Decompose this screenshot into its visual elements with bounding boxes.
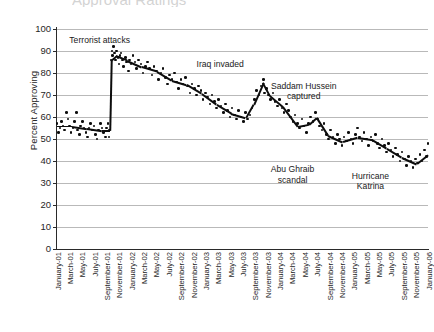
x-tick-may-03: May-03	[228, 252, 236, 277]
data-point	[307, 122, 310, 125]
x-tick-march-05: March-05	[364, 252, 372, 284]
y-tick-10: 10	[25, 221, 51, 232]
data-point	[370, 136, 373, 139]
data-point	[104, 136, 107, 139]
data-point	[63, 129, 66, 132]
data-point	[414, 158, 417, 161]
data-point	[121, 59, 124, 62]
data-point	[173, 72, 176, 75]
data-point	[94, 133, 97, 136]
data-point	[374, 133, 377, 136]
data-point	[396, 153, 399, 156]
data-point	[363, 131, 366, 134]
data-point	[89, 122, 92, 125]
data-point	[226, 109, 229, 112]
data-point	[122, 65, 125, 68]
gridline-70	[57, 95, 428, 96]
x-tick-november-02: November-02	[191, 252, 199, 298]
data-point	[60, 120, 63, 123]
data-point	[81, 120, 84, 123]
chart-title-text: Approval Ratings	[72, 0, 186, 7]
x-tick-march-04: March-04	[289, 252, 297, 284]
data-point	[303, 125, 306, 128]
data-point	[237, 109, 240, 112]
x-axis-tick-labels: January-01March-01May-01July-01September…	[57, 252, 428, 332]
x-tick-july-04: July-04	[314, 252, 322, 276]
data-point	[246, 118, 249, 121]
data-point	[153, 65, 156, 68]
data-point	[296, 122, 299, 125]
x-tick-september-01: September-01	[104, 252, 112, 300]
data-point	[65, 111, 68, 114]
data-point	[405, 164, 408, 167]
x-tick-september-04: September-04	[327, 252, 335, 300]
annotation-line: Saddam Hussein	[271, 80, 336, 91]
data-point	[265, 87, 268, 90]
data-point	[249, 114, 252, 117]
data-point	[376, 142, 379, 145]
data-point	[111, 54, 114, 57]
data-point	[403, 158, 406, 161]
annotation-line: Hurricane	[352, 170, 389, 181]
gridline-10	[57, 227, 428, 228]
y-tick-50: 50	[25, 133, 51, 144]
data-point	[305, 131, 308, 134]
x-tick-january-03: January-03	[203, 252, 211, 290]
x-tick-may-04: May-04	[302, 252, 310, 277]
data-point	[101, 127, 104, 130]
data-point	[132, 54, 135, 57]
data-point	[162, 67, 165, 70]
data-point	[394, 147, 397, 150]
y-tickmark-0	[53, 249, 57, 250]
x-tick-september-05: September-05	[401, 252, 409, 300]
data-point	[255, 89, 258, 92]
data-point	[281, 107, 284, 110]
y-tick-90: 90	[25, 45, 51, 56]
annotation-line: Iraq invaded	[197, 59, 244, 70]
annotation-line: captured	[271, 91, 336, 102]
data-point	[189, 92, 192, 95]
data-point	[148, 67, 151, 70]
annotation-hurricane-katrina: HurricaneKatrina	[352, 170, 389, 191]
data-point	[224, 103, 227, 106]
y-tick-100: 100	[25, 23, 51, 34]
data-point	[213, 100, 216, 103]
data-point	[314, 111, 317, 114]
data-point	[298, 127, 301, 130]
data-point	[180, 78, 183, 81]
x-tick-march-03: March-03	[215, 252, 223, 284]
annotation-abu-ghraib-scandal: Abu Ghraibscandal	[271, 164, 314, 185]
x-tick-january-06: January-06	[426, 252, 434, 290]
data-point	[85, 131, 88, 134]
data-point	[283, 111, 286, 114]
data-point	[318, 125, 321, 128]
data-point	[378, 147, 381, 150]
data-point	[75, 111, 78, 114]
data-point	[79, 125, 82, 128]
data-point	[263, 92, 266, 95]
data-point	[412, 166, 415, 169]
x-tick-march-01: March-01	[67, 252, 75, 284]
annotation-line: Terrorist attacks	[69, 35, 130, 46]
y-axis-tick-labels: 1009080706050403020100	[23, 29, 51, 249]
y-tick-80: 80	[25, 67, 51, 78]
data-point	[127, 70, 130, 73]
x-tick-september-03: September-03	[252, 252, 260, 300]
gridline-40	[57, 161, 428, 162]
y-tick-0: 0	[25, 243, 51, 254]
data-point	[78, 133, 81, 136]
x-tick-march-02: March-02	[141, 252, 149, 284]
data-point	[323, 122, 326, 125]
data-point	[108, 136, 111, 139]
data-point	[144, 65, 147, 68]
data-point	[347, 131, 350, 134]
data-point	[57, 131, 60, 134]
data-point	[325, 133, 328, 136]
x-tick-november-03: November-03	[265, 252, 273, 298]
data-point	[146, 61, 149, 64]
x-tick-july-02: July-02	[166, 252, 174, 276]
data-point	[385, 151, 388, 154]
data-point	[334, 142, 337, 145]
data-point	[168, 74, 171, 77]
